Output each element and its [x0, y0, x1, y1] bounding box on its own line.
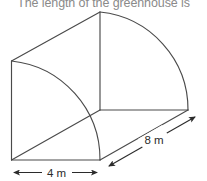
geometry-svg: 4 m 8 m [0, 0, 207, 181]
floor-receding-edge [12, 110, 101, 160]
back-face-arc [100, 12, 188, 110]
width-dimension: 4 m [14, 165, 97, 180]
width-label: 4 m [47, 167, 66, 179]
top-receding-edge [12, 12, 101, 61]
length-dimension: 8 m [109, 117, 195, 166]
front-face-arc [12, 61, 101, 160]
length-label: 8 m [144, 134, 163, 146]
greenhouse-figure: The length of the greenhouse is [0, 0, 207, 181]
